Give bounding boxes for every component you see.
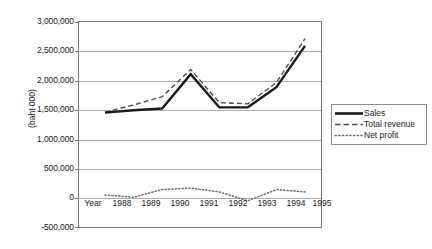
y-tick-mark [75, 169, 79, 170]
y-tick-label: 3,000,000 [0, 17, 74, 26]
gridline [79, 51, 321, 52]
legend-item-net-profit: Net profit [334, 130, 423, 141]
y-tick-mark [75, 51, 79, 52]
y-tick-mark [75, 140, 79, 141]
gridline [79, 140, 321, 141]
chart-container: (baht 000) 3,000,000 2,500,000 2,000,000… [0, 0, 432, 249]
legend-swatch-dashed-icon [334, 119, 364, 130]
y-tick-label: 2,500,000 [0, 46, 74, 55]
legend-label: Sales [364, 109, 385, 118]
y-tick-label: -500,000 [0, 223, 74, 232]
legend-item-total-revenue: Total revenue [334, 119, 423, 130]
y-tick-label: 500,000 [0, 164, 74, 173]
y-tick-label: 1,500,000 [0, 105, 74, 114]
gridline [79, 169, 321, 170]
legend-label: Net profit [364, 131, 399, 140]
legend-label: Total revenue [364, 120, 415, 129]
x-axis-title: Year [80, 199, 106, 208]
y-tick-label: 0 [0, 193, 74, 202]
y-tick-mark [75, 22, 79, 23]
legend-item-sales: Sales [334, 108, 423, 119]
legend-swatch-dotted-icon [334, 130, 364, 141]
plot-area [78, 21, 322, 228]
y-tick-mark [75, 110, 79, 111]
chart-legend: Sales Total revenue Net profit [331, 104, 427, 145]
gridline [79, 110, 321, 111]
y-tick-mark [75, 227, 79, 228]
gridline [79, 81, 321, 82]
y-tick-mark [75, 81, 79, 82]
y-tick-mark [75, 198, 79, 199]
y-tick-label: 2,000,000 [0, 76, 74, 85]
y-tick-label: 1,000,000 [0, 135, 74, 144]
legend-swatch-solid-icon [334, 108, 364, 119]
x-tick-label: 1995 [305, 199, 339, 208]
